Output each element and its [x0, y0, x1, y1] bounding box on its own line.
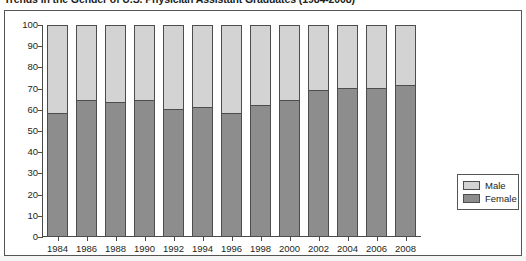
bar-segment-male [308, 25, 329, 237]
bar-column [395, 25, 416, 237]
bar-segment-male [366, 25, 387, 237]
bar-column [47, 25, 68, 237]
x-axis-tick-label: 1988 [105, 243, 126, 254]
y-axis-tick-label: 30 [8, 167, 38, 178]
y-axis-tick [38, 195, 43, 196]
x-axis-tick-label: 1994 [192, 243, 213, 254]
bar-segment-male [337, 25, 358, 237]
bar-segment-female [338, 88, 357, 236]
x-axis-tick [174, 237, 175, 241]
x-axis-tick [406, 237, 407, 241]
bar-segment-male [134, 25, 155, 237]
y-axis-tick [38, 237, 43, 238]
x-axis-tick [261, 237, 262, 241]
x-axis-tick [319, 237, 320, 241]
bar-segment-male [395, 25, 416, 237]
y-axis-tick [38, 25, 43, 26]
legend-label: Female [485, 193, 517, 204]
y-axis-tick [38, 152, 43, 153]
bar-column [76, 25, 97, 237]
legend-swatch-male [463, 181, 480, 190]
x-axis-tick [145, 237, 146, 241]
x-axis-tick-label: 2002 [308, 243, 329, 254]
bar-segment-male [192, 25, 213, 237]
bar-segment-male [76, 25, 97, 237]
bar-column [192, 25, 213, 237]
bar-segment-female [251, 105, 270, 236]
bar-segment-female [396, 85, 415, 236]
x-axis-tick-label: 1998 [250, 243, 271, 254]
y-axis-tick-label: 40 [8, 146, 38, 157]
x-axis-tick-label: 1990 [134, 243, 155, 254]
bar-segment-female [222, 113, 241, 236]
bar-segment-female [135, 100, 154, 236]
y-axis-tick-label: 60 [8, 104, 38, 115]
y-axis-tick-label: 80 [8, 61, 38, 72]
chart-legend: MaleFemale [457, 174, 519, 210]
bar-segment-male [47, 25, 68, 237]
bar-segment-male [163, 25, 184, 237]
y-axis-tick-label: 0 [8, 231, 38, 242]
chart-frame: 0102030405060708090100 19841986198819901… [4, 10, 522, 256]
bar-segment-male [221, 25, 242, 237]
y-axis-tick [38, 46, 43, 47]
x-axis-tick-label: 2006 [366, 243, 387, 254]
y-axis-tick-label: 20 [8, 189, 38, 200]
x-axis-tick-label: 1996 [221, 243, 242, 254]
bar-segment-female [367, 88, 386, 236]
bar-segment-female [164, 109, 183, 236]
y-axis-tick-label: 70 [8, 83, 38, 94]
y-axis-tick [38, 89, 43, 90]
legend-label: Male [485, 180, 506, 191]
x-axis-tick [203, 237, 204, 241]
x-axis-tick [58, 237, 59, 241]
y-axis-tick [38, 216, 43, 217]
y-axis-tick [38, 173, 43, 174]
x-axis-tick-label: 1992 [163, 243, 184, 254]
page-title: Trends in the Gender of U.S. Physician A… [4, 0, 355, 5]
bar-segment-male [279, 25, 300, 237]
x-axis-tick-label: 2008 [395, 243, 416, 254]
bar-column [105, 25, 126, 237]
scan-artifact-band [0, 256, 526, 261]
x-axis-tick [348, 237, 349, 241]
x-axis-tick-label: 1986 [76, 243, 97, 254]
bar-column [134, 25, 155, 237]
bar-column [366, 25, 387, 237]
legend-item: Female [463, 192, 513, 205]
y-axis-tick-label: 50 [8, 125, 38, 136]
x-axis-tick-label: 1984 [47, 243, 68, 254]
x-axis-tick-label: 2000 [279, 243, 300, 254]
bar-column [279, 25, 300, 237]
x-axis-tick [87, 237, 88, 241]
y-axis-tick [38, 131, 43, 132]
y-axis-tick-label: 10 [8, 210, 38, 221]
bar-column [163, 25, 184, 237]
x-axis-tick [377, 237, 378, 241]
bar-segment-female [48, 113, 67, 236]
bar-column [250, 25, 271, 237]
x-axis-tick-label: 2004 [337, 243, 358, 254]
y-axis-tick [38, 67, 43, 68]
bar-segment-female [193, 107, 212, 236]
x-axis-tick [290, 237, 291, 241]
legend-swatch-female [463, 194, 480, 203]
plot-area: 0102030405060708090100 19841986198819901… [42, 25, 419, 237]
bar-column [337, 25, 358, 237]
y-axis-tick-label: 90 [8, 40, 38, 51]
y-axis-tick-label: 100 [8, 19, 38, 30]
x-axis-tick [116, 237, 117, 241]
y-axis-tick [38, 110, 43, 111]
bar-segment-female [309, 90, 328, 236]
bar-segment-female [106, 102, 125, 236]
bar-column [308, 25, 329, 237]
bar-segment-male [250, 25, 271, 237]
bar-segment-female [77, 100, 96, 236]
x-axis-tick [232, 237, 233, 241]
bar-segment-female [280, 100, 299, 236]
bar-segment-male [105, 25, 126, 237]
legend-item: Male [463, 179, 513, 192]
bar-column [221, 25, 242, 237]
